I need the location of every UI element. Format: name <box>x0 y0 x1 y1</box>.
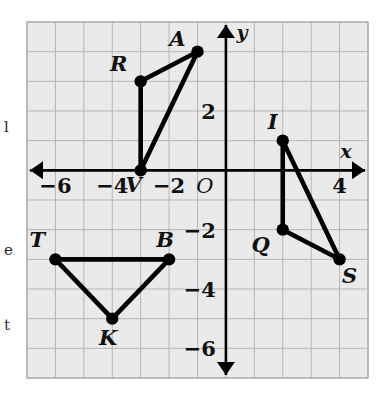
vertex-label-s: S <box>342 263 357 288</box>
vertex-label-k: K <box>98 325 118 350</box>
x-tick-label: 4 <box>332 173 347 198</box>
margin-text-fragment: e <box>4 243 13 258</box>
y-tick-label: −2 <box>184 218 216 243</box>
coordinate-plane-svg: −6−4−242−2−4−6OxyRAVIQSTBK <box>0 0 391 402</box>
vertex-point-r <box>134 75 146 87</box>
margin-text-fragment: l <box>4 120 9 135</box>
vertex-label-t: T <box>30 227 47 252</box>
y-tick-label: 2 <box>201 99 216 124</box>
vertex-label-r: R <box>109 51 127 76</box>
vertex-label-q: Q <box>252 232 270 257</box>
vertex-label-v: V <box>126 172 145 197</box>
coordinate-plane-figure: −6−4−242−2−4−6OxyRAVIQSTBK <box>0 0 391 402</box>
vertex-label-b: B <box>155 227 174 252</box>
vertex-point-b <box>163 253 175 265</box>
y-tick-label: −6 <box>184 336 216 361</box>
x-tick-label: −6 <box>39 173 71 198</box>
vertex-point-q <box>277 223 289 235</box>
x-axis-name-label: x <box>339 140 352 162</box>
vertex-point-t <box>49 253 61 265</box>
y-axis-name-label: y <box>235 21 249 43</box>
vertex-point-k <box>106 312 118 324</box>
x-tick-label: −4 <box>96 173 128 198</box>
origin-label: O <box>196 174 213 198</box>
x-tick-label: −2 <box>153 173 185 198</box>
vertex-point-a <box>191 45 203 57</box>
vertex-point-i <box>277 134 289 146</box>
vertex-label-a: A <box>167 26 185 51</box>
y-tick-label: −4 <box>184 277 216 302</box>
vertex-label-i: I <box>267 109 279 134</box>
margin-text-fragment: t <box>4 318 10 333</box>
